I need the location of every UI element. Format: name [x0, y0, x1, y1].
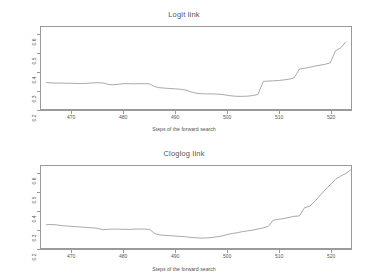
- x-axis-label-cloglog: Steps of the forward search: [0, 266, 368, 272]
- x-tick-label: 490: [165, 114, 185, 120]
- y-tick-label: 0.4: [31, 211, 37, 227]
- page-title-cloglog: Cloglog link: [0, 149, 368, 158]
- plot-area-logit: [40, 26, 352, 110]
- chart-panel-logit: Logit link Total classification errors o…: [0, 0, 368, 139]
- x-tick-label: 510: [269, 253, 289, 259]
- x-axis-line-logit: [40, 110, 352, 111]
- page-title-logit: Logit link: [0, 10, 368, 19]
- x-tick-label: 490: [165, 253, 185, 259]
- x-tick-label: 520: [321, 114, 341, 120]
- x-axis-label-logit: Steps of the forward search: [0, 126, 368, 132]
- y-tick-label: 0.2: [31, 110, 37, 126]
- y-tick-label: 0.4: [31, 72, 37, 88]
- y-tick-label: 0.5: [31, 53, 37, 69]
- x-axis-line-cloglog: [40, 249, 352, 250]
- y-tick-label: 0.5: [31, 192, 37, 208]
- data-series-line-cloglog: [41, 166, 351, 248]
- x-tick-label: 520: [321, 253, 341, 259]
- plot-area-cloglog: [40, 165, 352, 249]
- y-tick-label: 0.3: [31, 230, 37, 246]
- y-tick-label: 0.6: [31, 34, 37, 50]
- x-tick-label: 500: [217, 114, 237, 120]
- y-tick-label: 0.3: [31, 91, 37, 107]
- x-tick-label: 470: [61, 253, 81, 259]
- y-tick-label: 0.2: [31, 249, 37, 265]
- x-tick-label: 480: [113, 253, 133, 259]
- chart-panel-cloglog: Cloglog link Total classification errors…: [0, 139, 368, 279]
- x-tick-label: 510: [269, 114, 289, 120]
- data-series-line-logit: [41, 27, 351, 109]
- x-tick-label: 470: [61, 114, 81, 120]
- y-tick-label: 0.6: [31, 173, 37, 189]
- x-tick-label: 500: [217, 253, 237, 259]
- x-tick-label: 480: [113, 114, 133, 120]
